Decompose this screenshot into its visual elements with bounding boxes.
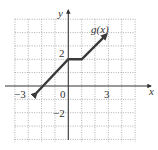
graph-g-of-x: x y g(x) −3 0 3 2 −2 [0, 0, 158, 150]
x-axis-label: x [148, 85, 154, 97]
x-tick-label-neg3: −3 [14, 88, 26, 100]
x-tick-label-3: 3 [104, 88, 110, 100]
y-tick-label-2: 2 [59, 47, 65, 59]
grid [15, 19, 135, 142]
function-label: g(x) [91, 23, 109, 36]
y-tick-label-neg2: −2 [53, 107, 65, 119]
x-tick-label-0: 0 [60, 88, 66, 100]
y-axis-label: y [57, 7, 63, 19]
g-of-x-curve [36, 35, 106, 93]
